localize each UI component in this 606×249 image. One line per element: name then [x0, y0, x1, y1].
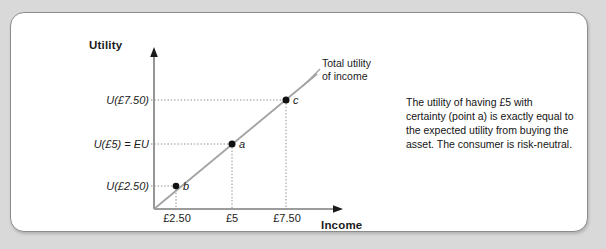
data-point-label-a: a: [239, 138, 245, 150]
x-axis-title: Income: [321, 219, 362, 232]
x-tick-label-3: £7.50: [257, 212, 317, 224]
chart-plot-area: Utility Income U(£7.50) U(£5) = EU U(£2.…: [11, 13, 401, 233]
y-axis: [150, 47, 158, 209]
x-tick-label-2: £5: [202, 212, 262, 224]
description-paragraph: The utility of having £5 with certainty …: [406, 96, 574, 151]
data-point-label-b: b: [183, 180, 189, 192]
curve-annotation-line-1: Total utility: [322, 57, 371, 70]
data-point-c: [283, 97, 290, 104]
y-tick-label-high: U(£7.50): [29, 94, 149, 106]
y-tick-label-low: U(£2.50): [29, 180, 149, 192]
annotation-leader-line: [303, 69, 320, 86]
y-tick-label-mid: U(£5) = EU: [29, 138, 149, 150]
y-axis-title: Utility: [89, 39, 122, 52]
figure-card: Utility Income U(£7.50) U(£5) = EU U(£2.…: [10, 12, 588, 232]
curve-annotation-line-2: of income: [322, 70, 371, 83]
data-point-b: [173, 183, 180, 190]
data-point-label-c: c: [293, 94, 299, 106]
x-tick-label-1: £2.50: [147, 212, 207, 224]
data-point-a: [229, 141, 236, 148]
chart-graphics: [11, 13, 401, 233]
curve-annotation: Total utility of income: [322, 57, 371, 83]
